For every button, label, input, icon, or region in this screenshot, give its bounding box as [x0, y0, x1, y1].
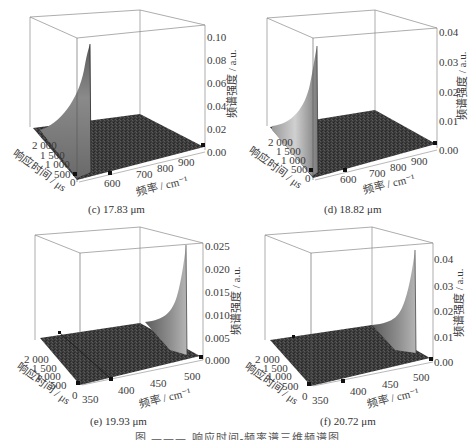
x-tick: 700 — [136, 168, 153, 180]
y-tick: 0 — [305, 172, 311, 184]
x-tick: 400 — [350, 385, 367, 397]
z-tick: 0.025 — [205, 240, 230, 252]
z-axis-ticks: 0.04 0.03 0.02 0.01 0.00 — [434, 253, 454, 368]
figure-caption-text: 图 ——— 响应时间-频率谱三维频谱图 — [0, 432, 475, 440]
panel-caption: (f) 20.72 μm — [320, 415, 376, 428]
x-tick: 400 — [118, 384, 135, 396]
x-tick: 350 — [312, 394, 329, 406]
x-tick: 800 — [390, 161, 407, 173]
z-tick: 0.02 — [207, 123, 226, 135]
z-tick: 0.03 — [434, 280, 454, 292]
x-tick: 900 — [178, 156, 195, 168]
z-axis-label: 频谱强度 / a.u. — [229, 266, 242, 335]
panel-caption: (d) 18.82 μm — [324, 203, 382, 216]
z-tick: 0.01 — [434, 331, 453, 343]
z-tick: 0.04 — [439, 26, 459, 38]
z-tick: 0.00 — [439, 144, 459, 156]
x-tick: 600 — [340, 173, 357, 185]
panel-c: 0.10 0.08 0.06 0.04 0.02 0.00 频谱强度 / a.u… — [11, 10, 238, 216]
z-tick: 0.010 — [205, 309, 230, 321]
z-tick: 0.04 — [207, 100, 227, 112]
z-tick: 0.005 — [205, 332, 230, 344]
z-axis-ticks: 0.025 0.020 0.015 0.010 0.005 0.000 — [205, 240, 230, 366]
panel-caption: (e) 19.93 μm — [90, 415, 147, 428]
z-tick: 0.08 — [207, 54, 227, 66]
z-axis-label: 频谱强度 / a.u. — [452, 268, 465, 337]
z-tick: 0.10 — [207, 31, 227, 43]
x-tick: 800 — [157, 162, 174, 174]
z-tick: 0.015 — [205, 286, 230, 298]
z-tick: 0.00 — [434, 356, 454, 368]
y-tick: 0 — [72, 389, 78, 401]
x-tick: 500 — [413, 371, 430, 383]
x-tick: 900 — [411, 155, 428, 167]
figure: 0.10 0.08 0.06 0.04 0.02 0.00 频谱强度 / a.u… — [0, 0, 475, 440]
z-axis-label: 频谱强度 / a.u. — [455, 51, 468, 120]
z-tick: 0.06 — [207, 77, 227, 89]
x-tick: 450 — [150, 377, 167, 389]
x-tick: 700 — [369, 167, 386, 179]
z-tick: 0.000 — [205, 354, 230, 366]
x-tick: 450 — [382, 378, 399, 390]
z-tick: 0.020 — [205, 263, 230, 275]
figure-caption-truncated: 图 ——— 响应时间-频率谱三维频谱图 — [0, 432, 475, 440]
panel-caption: (c) 17.83 μm — [88, 203, 145, 216]
panel-d: 0.04 0.03 0.02 0.01 0.00 频谱强度 / a.u. 600… — [247, 10, 468, 216]
y-tick: 0 — [70, 176, 76, 188]
x-tick: 600 — [104, 177, 121, 189]
panel-e: 0.025 0.020 0.015 0.010 0.005 0.000 频谱强度… — [15, 227, 242, 428]
y-tick: 0 — [302, 390, 308, 402]
z-tick: 0.04 — [434, 253, 454, 265]
z-tick: 0.00 — [207, 146, 227, 158]
x-tick: 350 — [82, 393, 99, 405]
z-tick: 0.02 — [434, 305, 453, 317]
panel-f: 0.04 0.03 0.02 0.01 0.00 频谱强度 / a.u. 350… — [243, 227, 465, 428]
x-tick: 500 — [184, 370, 201, 382]
z-axis-label: 频谱强度 / a.u. — [225, 49, 238, 118]
z-axis-ticks: 0.10 0.08 0.06 0.04 0.02 0.00 — [207, 31, 227, 158]
